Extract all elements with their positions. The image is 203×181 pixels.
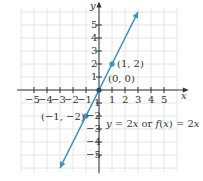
- y-tick-label: 3: [91, 46, 97, 56]
- y-tick-label: −2: [86, 111, 101, 121]
- y-tick-label: 2: [91, 59, 97, 69]
- y-axis-label: y: [90, 1, 96, 11]
- graph-plot: [0, 0, 203, 181]
- x-axis-label: x: [181, 91, 187, 101]
- point-label-neg1-neg2: (−1, −2): [41, 112, 85, 122]
- y-tick-label: −5: [86, 150, 101, 160]
- y-tick-label: 1: [94, 98, 100, 108]
- y-tick-label: 5: [91, 20, 97, 30]
- y-tick-label: 4: [91, 33, 97, 43]
- y-tick-label: 1: [91, 72, 97, 82]
- x-tick-label: −1: [77, 95, 92, 105]
- y-axis-arrow-icon: [97, 2, 102, 8]
- point-label-1-2: (1, 2): [117, 59, 144, 69]
- x-tick-label: 3: [135, 95, 141, 105]
- eq-paren2: ) = 2: [169, 118, 194, 129]
- x-tick-label: 5: [161, 95, 167, 105]
- y-tick-label: −4: [86, 137, 101, 147]
- point-label-origin: (0, 0): [108, 74, 135, 84]
- eq-mid: = 2: [112, 118, 133, 129]
- data-point-dot: [96, 87, 101, 92]
- equation-label: y = 2x or f(x) = 2x: [106, 119, 199, 129]
- x-tick-label: 2: [122, 95, 128, 105]
- y-tick-label: −3: [86, 124, 101, 134]
- eq-x3: x: [194, 118, 200, 129]
- axes: [17, 2, 189, 174]
- x-tick-label: 4: [148, 95, 154, 105]
- x-tick-label: 1: [109, 95, 115, 105]
- data-point-dot: [109, 61, 114, 66]
- eq-or: or: [138, 118, 155, 129]
